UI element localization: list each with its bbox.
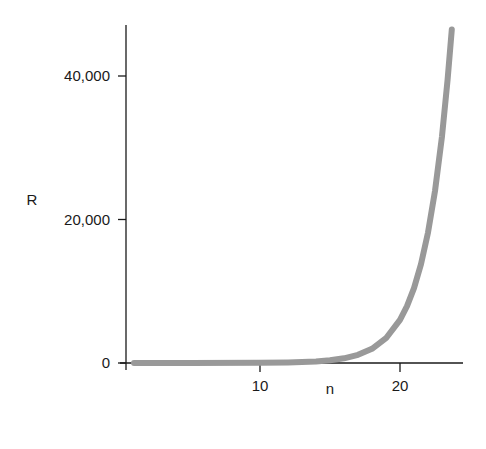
data-curve [134, 29, 452, 363]
y-tick-label: 0 [102, 354, 110, 371]
x-tick-label: 10 [252, 377, 269, 394]
x-axis-title: n [326, 380, 334, 397]
y-ticks: 020,00040,000 [64, 67, 126, 371]
x-tick-label: 20 [392, 377, 409, 394]
y-axis-title: R [27, 191, 38, 208]
y-tick-label: 40,000 [64, 67, 110, 84]
y-tick-label: 20,000 [64, 211, 110, 228]
chart: 020,00040,000 1020 R n [0, 0, 486, 449]
